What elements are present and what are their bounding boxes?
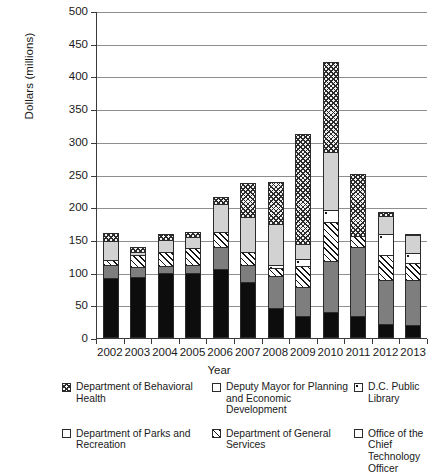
bar-segment xyxy=(405,253,421,264)
stacked-bar[interactable] xyxy=(323,63,339,338)
stacked-bar[interactable] xyxy=(405,235,421,338)
bar-segment xyxy=(185,237,201,249)
y-axis-tick-label: 150 xyxy=(69,235,88,247)
bar-segment xyxy=(323,210,339,223)
x-axis-tick-label: 2007 xyxy=(234,346,262,360)
legend-item[interactable]: Department of General Services xyxy=(212,428,354,474)
bar-segment xyxy=(213,247,229,270)
x-axis-tick-label: 2009 xyxy=(289,346,317,360)
x-axis-tick xyxy=(151,339,152,344)
y-axis-tick-label: 500 xyxy=(69,6,88,18)
stacked-bar[interactable] xyxy=(185,233,201,339)
bar-cell xyxy=(125,12,153,338)
bar-segment xyxy=(378,255,394,281)
bar-segment xyxy=(295,134,311,245)
bar-segment xyxy=(295,266,311,288)
bar-cell xyxy=(372,12,400,338)
stacked-bar[interactable] xyxy=(213,198,229,338)
bar-segment xyxy=(323,261,339,313)
stacked-bar[interactable] xyxy=(130,248,146,338)
bar-segment xyxy=(323,222,339,261)
bar-cell xyxy=(152,12,180,338)
bar-segment xyxy=(185,248,201,266)
stacked-bar[interactable] xyxy=(103,234,119,338)
x-axis-tick xyxy=(399,339,400,344)
legend-label: Deputy Mayor for Planning and Economic D… xyxy=(226,381,354,416)
x-axis-tick xyxy=(372,339,373,344)
bar-segment xyxy=(103,265,119,279)
x-axis-tick xyxy=(427,339,428,344)
stacked-bar[interactable] xyxy=(268,183,284,338)
y-axis-tick-label: 300 xyxy=(69,137,88,149)
bar-segment xyxy=(213,269,229,338)
bar-segment xyxy=(240,252,256,266)
bar-segment xyxy=(240,282,256,338)
bar-segment xyxy=(350,174,366,237)
bar-segment xyxy=(130,267,146,278)
x-axis-ticks xyxy=(96,339,427,345)
bar-segment xyxy=(158,234,174,241)
bar-segment xyxy=(268,308,284,338)
x-axis-labels: 2002200320042005200620072008200920102011… xyxy=(96,346,427,360)
bar-segment xyxy=(240,183,256,218)
bar-segment xyxy=(158,252,174,266)
stacked-bar[interactable] xyxy=(295,135,311,338)
legend-swatch xyxy=(62,429,71,438)
bar-segment xyxy=(268,276,284,309)
x-axis-tick-label: 2010 xyxy=(317,346,345,360)
chart-legend: Department of Behavioral HealthDeputy Ma… xyxy=(62,381,434,474)
bar-segment xyxy=(158,266,174,274)
x-axis-tick-label: 2008 xyxy=(261,346,289,360)
bar-segment xyxy=(240,217,256,253)
x-axis-tick xyxy=(317,339,318,344)
bar-segment xyxy=(350,247,366,316)
x-axis-tick-label: 2002 xyxy=(96,346,124,360)
bar-segment xyxy=(103,278,119,338)
bar-segment xyxy=(130,247,146,253)
bar-cell xyxy=(207,12,235,338)
legend-item[interactable]: Office of the Chief Technology Officer xyxy=(354,428,434,474)
bar-segment xyxy=(405,235,421,253)
x-axis-tick xyxy=(262,339,263,344)
x-axis-tick-label: 2003 xyxy=(124,346,152,360)
bar-cell xyxy=(235,12,263,338)
legend-item[interactable]: Department of Behavioral Health xyxy=(62,381,212,416)
x-axis-tick xyxy=(234,339,235,344)
x-axis-tick-label: 2004 xyxy=(151,346,179,360)
bar-segment xyxy=(295,259,311,267)
bar-segment xyxy=(158,273,174,338)
y-axis-tick-label: 400 xyxy=(69,72,88,84)
legend-swatch xyxy=(354,429,363,438)
bar-segment xyxy=(240,265,256,283)
bar-segment xyxy=(213,232,229,248)
stacked-bar[interactable] xyxy=(350,175,366,338)
legend-swatch xyxy=(62,383,71,392)
bar-segment xyxy=(405,325,421,338)
bar-segment xyxy=(378,280,394,324)
bar-segment xyxy=(213,204,229,233)
stacked-bar[interactable] xyxy=(240,184,256,338)
x-axis-tick xyxy=(206,339,207,344)
x-axis-tick xyxy=(289,339,290,344)
bar-segment xyxy=(350,236,366,248)
bar-segment xyxy=(295,316,311,338)
bar-cell xyxy=(400,12,428,338)
bar-segment xyxy=(295,244,311,260)
legend-item[interactable]: D.C. Public Library xyxy=(354,381,434,416)
legend-swatch xyxy=(212,429,221,438)
stacked-bar[interactable] xyxy=(378,213,394,338)
x-axis-tick-label: 2005 xyxy=(179,346,207,360)
y-axis-tick-label: 100 xyxy=(69,268,88,280)
x-axis-tick-label: 2013 xyxy=(399,346,427,360)
y-axis-tick-label: 450 xyxy=(69,39,88,51)
bar-segment xyxy=(378,324,394,338)
stacked-bar[interactable] xyxy=(158,235,174,338)
x-axis-tick xyxy=(344,339,345,344)
bar-segment xyxy=(158,240,174,254)
y-axis-tick-label: 0 xyxy=(82,333,88,345)
legend-item[interactable]: Department of Parks and Recreation xyxy=(62,428,212,474)
bar-group xyxy=(97,12,427,338)
legend-item[interactable]: Deputy Mayor for Planning and Economic D… xyxy=(212,381,354,416)
bar-cell xyxy=(345,12,373,338)
bar-cell xyxy=(290,12,318,338)
